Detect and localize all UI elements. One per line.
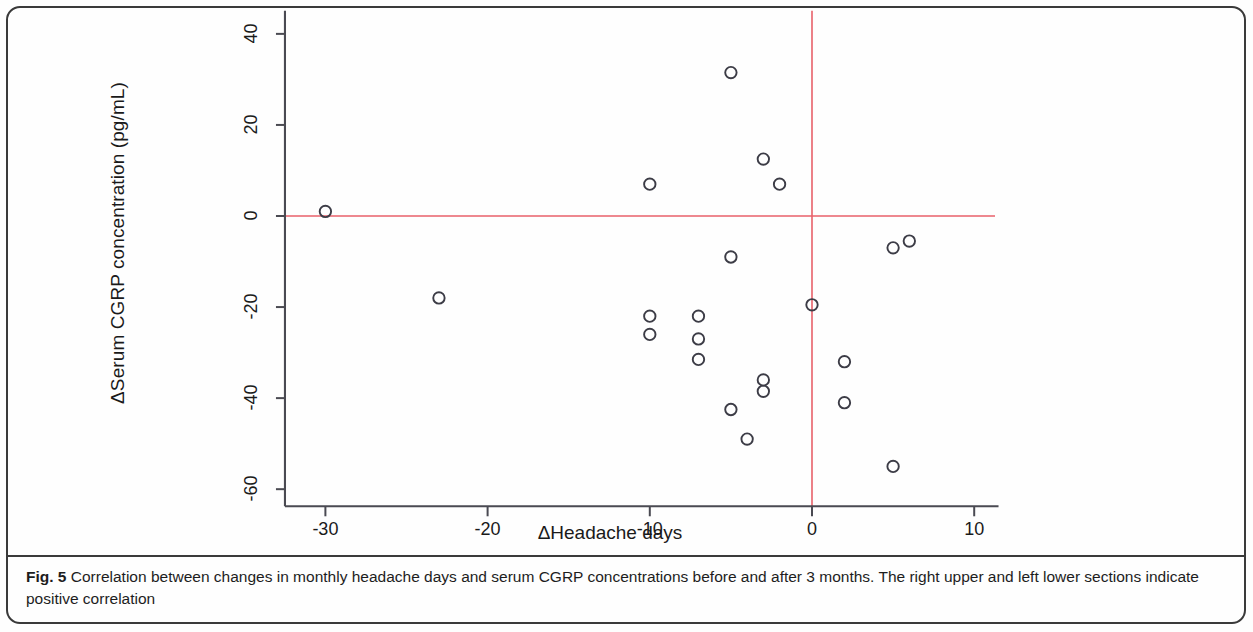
data-point (774, 178, 785, 189)
data-point (725, 251, 736, 262)
data-point (839, 397, 850, 408)
y-tick-label: 40 (240, 10, 261, 56)
x-tick-label: -20 (458, 519, 518, 540)
data-point (693, 333, 704, 344)
data-point (904, 235, 915, 246)
data-point (644, 178, 655, 189)
data-point (725, 67, 736, 78)
data-point (433, 292, 444, 303)
y-tick-label: 20 (240, 101, 261, 147)
figure-page: ΔSerum CGRP concentration (pg/mL) ΔHeada… (0, 0, 1253, 632)
data-point (644, 329, 655, 340)
x-tick-label: 0 (782, 519, 842, 540)
data-point (839, 356, 850, 367)
y-tick-label: 0 (240, 193, 261, 239)
scatter-plot: ΔSerum CGRP concentration (pg/mL) ΔHeada… (0, 0, 1253, 555)
caption-divider (8, 555, 1244, 557)
data-point (725, 404, 736, 415)
x-tick-label: -10 (620, 519, 680, 540)
figure-caption-text: Correlation between changes in monthly h… (26, 568, 1199, 607)
data-points-group (320, 67, 915, 472)
figure-number: Fig. 5 (26, 568, 66, 585)
axis-group (276, 11, 999, 517)
x-axis-label: ΔHeadache days (480, 522, 740, 544)
y-tick-label: -20 (240, 284, 261, 330)
data-point (887, 242, 898, 253)
data-point (758, 374, 769, 385)
data-point (644, 310, 655, 321)
data-point (758, 386, 769, 397)
figure-caption: Fig. 5 Correlation between changes in mo… (26, 566, 1222, 611)
y-tick-label: -40 (240, 375, 261, 421)
plot-canvas (0, 0, 1253, 555)
x-tick-label: 10 (944, 519, 1004, 540)
data-point (758, 153, 769, 164)
data-point (741, 433, 752, 444)
y-axis-label: ΔSerum CGRP concentration (pg/mL) (107, 33, 129, 453)
y-tick-label: -60 (240, 466, 261, 512)
data-point (887, 461, 898, 472)
data-point (693, 354, 704, 365)
data-point (693, 310, 704, 321)
x-tick-label: -30 (295, 519, 355, 540)
reference-lines-group (285, 11, 995, 507)
